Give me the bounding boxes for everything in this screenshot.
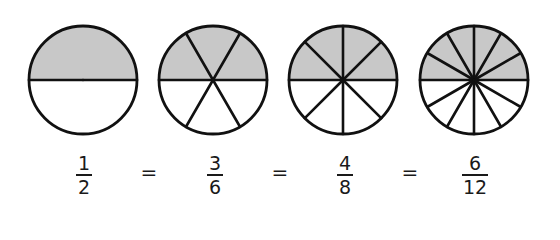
numerator: 6 xyxy=(455,152,495,174)
fraction-circle-twelfths xyxy=(420,26,528,134)
equals-sign: = xyxy=(137,160,161,184)
divider-line xyxy=(343,80,381,118)
denominator: 6 xyxy=(195,176,235,198)
fraction-six-twelfths: 6 12 xyxy=(455,152,495,198)
fraction-four-eighths: 4 8 xyxy=(325,152,365,198)
numerator: 1 xyxy=(64,152,104,174)
divider-line xyxy=(213,80,240,127)
fraction-circle-half xyxy=(29,26,137,134)
denominator: 2 xyxy=(64,176,104,198)
equals-sign: = xyxy=(398,160,422,184)
numerator: 4 xyxy=(325,152,365,174)
denominator: 8 xyxy=(325,176,365,198)
fraction-circle-eighths xyxy=(289,26,397,134)
fraction-one-half: 1 2 xyxy=(64,152,104,198)
shaded-region xyxy=(159,26,267,80)
fraction-three-sixths: 3 6 xyxy=(195,152,235,198)
denominator: 12 xyxy=(455,176,495,198)
equals-sign: = xyxy=(268,160,292,184)
numerator: 3 xyxy=(195,152,235,174)
divider-line xyxy=(186,80,213,127)
fraction-circle-sixths xyxy=(159,26,267,134)
divider-line xyxy=(305,80,343,118)
shaded-region xyxy=(29,26,137,80)
